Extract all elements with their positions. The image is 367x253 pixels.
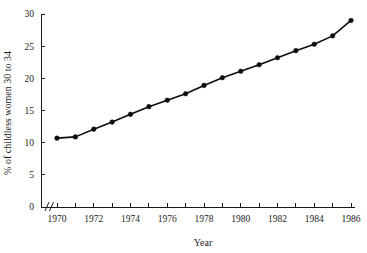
- data-point: [147, 104, 152, 109]
- data-point: [294, 48, 299, 53]
- y-axis-title: % of childless women 30 to 34: [2, 51, 13, 175]
- chart-container: 051015202530 197019721974197619781980198…: [0, 0, 367, 253]
- x-tick-label: 1970: [48, 214, 67, 224]
- line-chart: 051015202530 197019721974197619781980198…: [0, 0, 367, 253]
- y-tick-label: 10: [25, 138, 35, 148]
- x-tick-label: 1982: [268, 214, 287, 224]
- data-point: [202, 83, 207, 88]
- x-tick-label: 1976: [158, 214, 177, 224]
- y-axis-ticks: [41, 14, 45, 207]
- data-line: [57, 20, 351, 138]
- y-axis-tick-labels: 051015202530: [25, 9, 35, 212]
- x-tick-label: 1984: [305, 214, 324, 224]
- data-point: [73, 135, 78, 140]
- x-tick-label: 1972: [84, 214, 103, 224]
- y-axis-group: 051015202530: [25, 9, 46, 212]
- data-markers: [55, 18, 354, 140]
- data-point: [275, 55, 280, 60]
- y-tick-label: 20: [25, 74, 35, 84]
- x-tick-label: 1974: [121, 214, 140, 224]
- data-point: [183, 91, 188, 96]
- data-point: [220, 75, 225, 80]
- x-axis-tick-labels: 197019721974197619781980198219841986: [48, 214, 361, 224]
- y-tick-label: 15: [25, 106, 35, 116]
- data-point: [312, 42, 317, 47]
- data-point: [238, 69, 243, 74]
- data-point: [349, 18, 354, 23]
- x-axis-title: Year: [194, 237, 213, 248]
- data-point: [110, 120, 115, 125]
- data-point: [55, 136, 60, 141]
- x-tick-label: 1978: [195, 214, 214, 224]
- data-series-group: [55, 18, 354, 140]
- data-point: [91, 127, 96, 132]
- x-tick-label: 1980: [231, 214, 250, 224]
- y-tick-label: 5: [29, 170, 34, 180]
- data-point: [257, 63, 262, 68]
- x-tick-label: 1986: [342, 214, 361, 224]
- x-axis-ticks: [57, 203, 351, 207]
- x-axis-group: 197019721974197619781980198219841986: [41, 202, 361, 224]
- y-tick-label: 0: [29, 202, 34, 212]
- data-point: [330, 34, 335, 39]
- y-tick-label: 25: [25, 42, 35, 52]
- y-tick-label: 30: [25, 9, 35, 19]
- data-point: [165, 98, 170, 103]
- data-point: [128, 112, 133, 117]
